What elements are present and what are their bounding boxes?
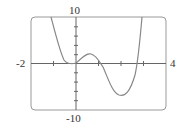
plot	[0, 0, 181, 128]
x-max-label: 4	[170, 58, 176, 69]
x-min-label: -2	[16, 58, 25, 69]
function-curve	[51, 17, 142, 95]
y-min-label: -10	[66, 113, 81, 124]
y-max-label: 10	[69, 5, 80, 16]
